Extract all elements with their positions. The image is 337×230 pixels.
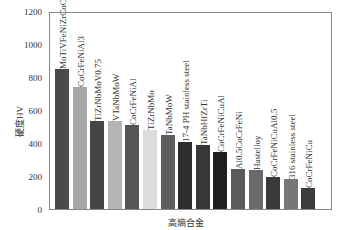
bar: [266, 177, 280, 209]
bar: [196, 145, 210, 209]
y-tick-label: 1000: [2, 41, 42, 50]
y-tick-label: 600: [2, 107, 42, 116]
bar: [125, 125, 139, 209]
bar-label: TaNbHfZrTi: [199, 99, 209, 145]
plot-area: MoTiVFeNiZrCoCrCoCrFeNiAl3TiZrNbMoV0.75V…: [49, 12, 332, 210]
bar-label: Al0.5CoCrFeNi: [234, 111, 244, 169]
y-tick-label: 1200: [2, 8, 42, 17]
bar: [73, 87, 87, 209]
bar: [213, 152, 227, 209]
bar-label: CoCrFeNiCuAl: [216, 95, 226, 152]
bar: [301, 188, 315, 209]
bar-label: MoTiVFeNiZrCoCr: [58, 0, 68, 69]
bar-label: TiZrNbMoV0.75: [93, 59, 103, 121]
bar: [178, 142, 192, 209]
y-tick-label: 400: [2, 140, 42, 149]
bar-label: Hastelloy: [252, 136, 262, 171]
bar: [231, 169, 245, 209]
bar: [55, 69, 69, 209]
bar-label: CoCrFeNiCuAl0.5: [269, 109, 279, 177]
bar-label: TaNbMoW: [164, 94, 174, 135]
bar: [143, 130, 157, 209]
bar-label: 316 stainless steel: [287, 114, 297, 179]
bar-label: CoCrFeNiCu: [304, 140, 314, 188]
bar-label: VTaNbMoW: [111, 74, 121, 121]
y-tick-label: 0: [2, 206, 42, 215]
x-axis-label: 高熵合金: [168, 216, 204, 229]
bar: [284, 179, 298, 209]
bar-label: CoCrFeNiAl3: [76, 36, 86, 87]
y-tick-label: 200: [2, 173, 42, 182]
y-tick-label: 800: [2, 74, 42, 83]
bar-label: TiZrNbMo: [146, 90, 156, 130]
bar-label: CoCrFeNiAl: [128, 78, 138, 125]
bar: [161, 135, 175, 209]
bar: [108, 121, 122, 209]
bar-label: 17-4 PH stainless steel: [181, 60, 191, 142]
bar: [90, 121, 104, 209]
bar: [249, 170, 263, 209]
